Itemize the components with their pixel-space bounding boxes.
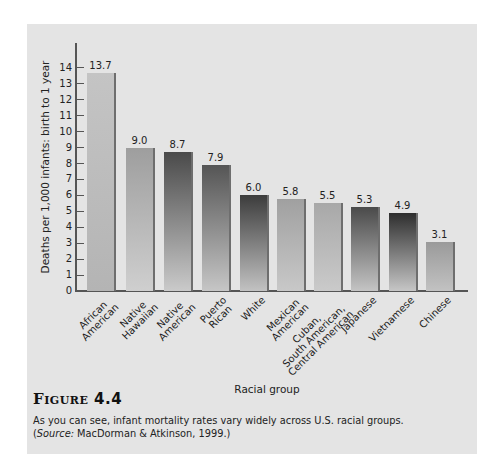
bar xyxy=(126,148,153,291)
bar xyxy=(351,207,378,291)
bar xyxy=(277,199,304,291)
y-tick-label: 10 xyxy=(52,127,72,137)
y-tick-label: 2 xyxy=(52,254,72,264)
y-tick xyxy=(76,83,84,84)
y-axis xyxy=(75,43,77,291)
y-tick xyxy=(76,179,84,180)
y-axis-label: Deaths per 1,000 infants: birth to 1 yea… xyxy=(39,61,51,274)
bar-value-label: 4.9 xyxy=(383,200,423,211)
y-tick-label: 6 xyxy=(52,190,72,200)
y-tick xyxy=(76,259,84,260)
caption-source: (Source: MacDorman & Atkinson, 1999.) xyxy=(33,427,473,440)
bar-value-label: 9.0 xyxy=(120,135,160,146)
y-tick xyxy=(76,243,84,244)
bar-value-label: 3.1 xyxy=(420,229,460,240)
y-tick xyxy=(76,163,84,164)
bar-value-label: 5.3 xyxy=(345,194,385,205)
caption-text: As you can see, infant mortality rates v… xyxy=(33,414,473,427)
y-tick xyxy=(76,227,84,228)
caption-source-text: MacDorman & Atkinson, 1999.) xyxy=(74,428,230,439)
bar xyxy=(202,165,229,291)
y-tick xyxy=(76,115,84,116)
y-tick-label: 0 xyxy=(52,286,72,296)
figure-number: 4.4 xyxy=(94,390,122,408)
y-tick xyxy=(76,99,84,100)
y-tick xyxy=(76,131,84,132)
bar xyxy=(240,195,267,291)
y-tick-label: 13 xyxy=(52,79,72,89)
bar xyxy=(389,213,416,291)
bar-value-label: 13.7 xyxy=(81,60,121,71)
y-tick-label: 11 xyxy=(52,111,72,121)
y-tick xyxy=(76,211,84,212)
y-tick-label: 8 xyxy=(52,159,72,169)
y-tick-label: 9 xyxy=(52,143,72,153)
figure-title: Figure 4.4 xyxy=(33,390,122,408)
bar-value-label: 8.7 xyxy=(158,139,198,150)
bar xyxy=(314,203,341,291)
y-tick-label: 14 xyxy=(52,63,72,73)
y-tick-label: 7 xyxy=(52,174,72,184)
bar xyxy=(426,242,453,291)
figure-caption: As you can see, infant mortality rates v… xyxy=(33,414,473,440)
y-tick xyxy=(76,195,84,196)
figure-label: Figure xyxy=(33,390,88,408)
bar xyxy=(87,73,114,291)
y-tick-label: 12 xyxy=(52,95,72,105)
y-tick xyxy=(76,147,84,148)
y-tick-label: 3 xyxy=(52,238,72,248)
y-tick-label: 4 xyxy=(52,222,72,232)
y-tick-label: 1 xyxy=(52,270,72,280)
y-tick-label: 5 xyxy=(52,206,72,216)
bar-value-label: 6.0 xyxy=(234,182,274,193)
bar-value-label: 5.5 xyxy=(308,190,348,201)
bar xyxy=(164,152,191,291)
bar-value-label: 7.9 xyxy=(196,152,236,163)
caption-source-label: Source: xyxy=(37,428,74,439)
bar-value-label: 5.8 xyxy=(271,186,311,197)
y-tick xyxy=(76,275,84,276)
